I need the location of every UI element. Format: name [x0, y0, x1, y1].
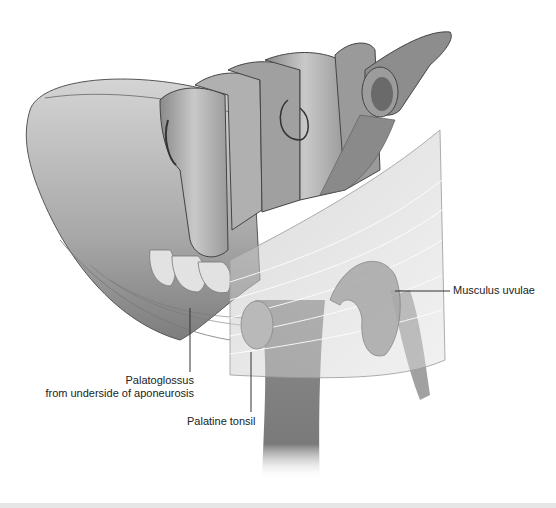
- palatine-tonsil-shape: [241, 301, 273, 349]
- anatomy-illustration: Musculus uvulae Palatoglossus from under…: [0, 0, 556, 503]
- palate-illustration-graphic: [0, 0, 556, 503]
- label-musculus-uvulae: Musculus uvulae: [453, 284, 535, 297]
- label-palatoglossus-line1: Palatoglossus: [45, 374, 194, 387]
- footer-bar: [0, 503, 556, 508]
- label-palatine-tonsil: Palatine tonsil: [187, 415, 256, 428]
- label-palatoglossus: Palatoglossus from underside of aponeuro…: [45, 374, 194, 400]
- label-palatoglossus-line2: from underside of aponeurosis: [45, 387, 194, 400]
- auditory-tube: [362, 32, 451, 117]
